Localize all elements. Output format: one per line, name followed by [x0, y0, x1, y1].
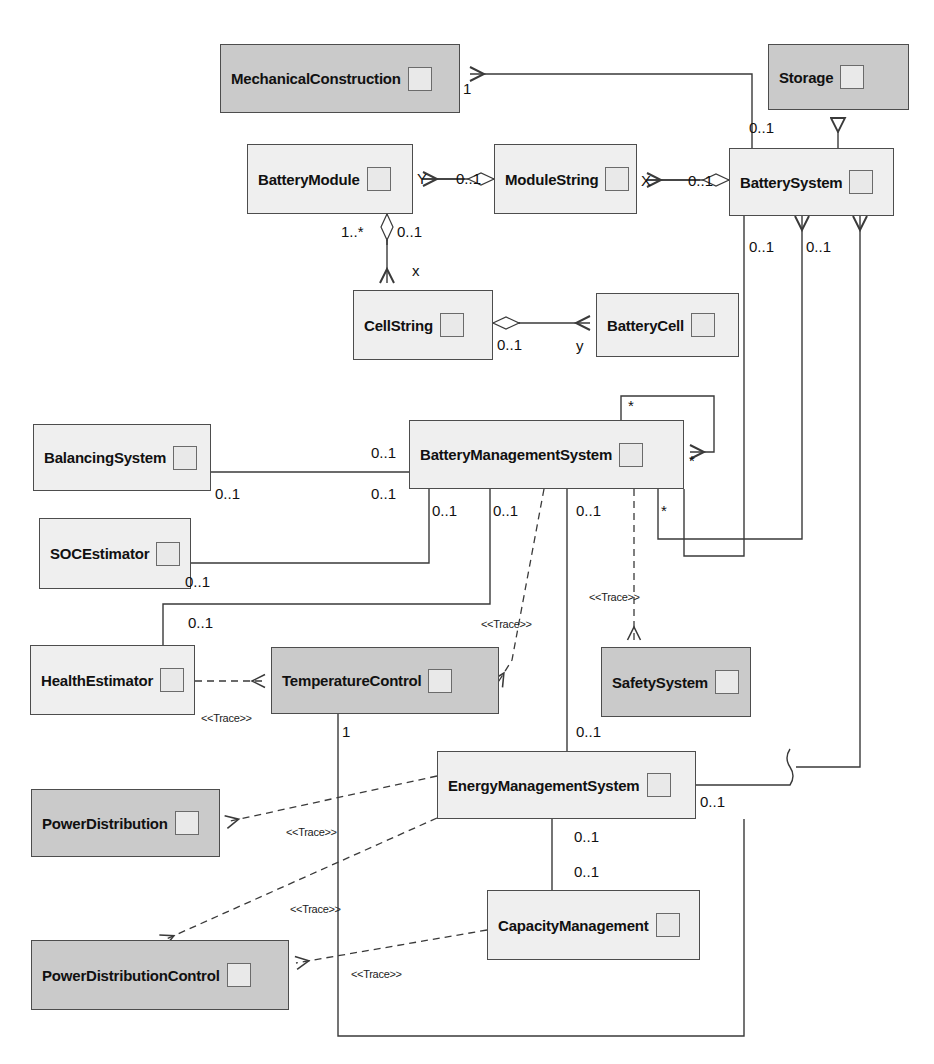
stereotype-label: <<Trace>>	[286, 826, 337, 838]
class-box-balancingsystem[interactable]: BalancingSystem	[33, 424, 211, 491]
multiplicity-label: 1..*	[341, 223, 364, 240]
multiplicity-label: *	[689, 452, 695, 469]
multiplicity-label: 0..1	[397, 223, 422, 240]
multiplicity-label: 0..1	[493, 502, 518, 519]
class-box-batterymodule[interactable]: BatteryModule	[247, 144, 413, 214]
multiplicity-label: 0..1	[749, 238, 774, 255]
edge-batterysystem-bms	[684, 216, 744, 556]
class-icon-stub	[605, 167, 629, 191]
class-name-label: HealthEstimator	[31, 672, 153, 689]
class-name-label: CapacityManagement	[488, 917, 649, 934]
class-box-socestimator[interactable]: SOCEstimator	[39, 518, 191, 589]
multiplicity-label: 0..1	[576, 723, 601, 740]
class-name-label: BatterySystem	[730, 174, 842, 191]
multiplicity-label: 0..1	[432, 502, 457, 519]
class-box-modulestring[interactable]: ModuleString	[494, 144, 637, 214]
stereotype-label: <<Trace>>	[201, 712, 252, 724]
multiplicity-label: 0..1	[806, 238, 831, 255]
multiplicity-label: X	[641, 172, 651, 189]
stereotype-label: <<Trace>>	[290, 903, 341, 915]
edge-trace-ems-powerdistribution	[226, 776, 437, 822]
multiplicity-label: 0..1	[497, 336, 522, 353]
class-name-label: SafetySystem	[602, 674, 708, 691]
class-box-powerdistribution[interactable]: PowerDistribution	[31, 789, 220, 857]
class-icon-stub	[367, 167, 391, 191]
class-box-capacitymanagement[interactable]: CapacityManagement	[487, 890, 700, 960]
multiplicity-label: 0..1	[574, 828, 599, 845]
class-icon-stub	[173, 446, 197, 470]
class-icon-stub	[840, 65, 864, 89]
multiplicity-label: *	[661, 502, 667, 519]
multiplicity-label: Y	[417, 170, 427, 187]
uml-class-diagram: MechanicalConstructionStorageBatteryModu…	[0, 0, 934, 1064]
class-icon-stub	[160, 668, 184, 692]
class-box-batterysystem[interactable]: BatterySystem	[729, 148, 894, 216]
multiplicity-label: 0..1	[371, 444, 396, 461]
class-icon-stub	[647, 773, 671, 797]
edge-bms-batterysystem-star	[658, 216, 802, 539]
class-box-energymanagementsystem[interactable]: EnergyManagementSystem	[437, 751, 696, 819]
class-name-label: PowerDistributionControl	[32, 967, 220, 984]
multiplicity-label: 0..1	[456, 170, 481, 187]
class-icon-stub	[408, 67, 432, 91]
class-box-healthestimator[interactable]: HealthEstimator	[30, 645, 195, 715]
stereotype-label: <<Trace>>	[589, 591, 640, 603]
class-box-batterymanagementsystem[interactable]: BatteryManagementSystem	[409, 420, 684, 489]
multiplicity-label: 1	[342, 723, 350, 740]
class-icon-stub	[656, 913, 680, 937]
class-icon-stub	[156, 542, 180, 566]
multiplicity-label: 0..1	[688, 172, 713, 189]
multiplicity-label: 0..1	[574, 863, 599, 880]
multiplicity-label: 0..1	[700, 793, 725, 810]
multiplicity-label: *	[628, 397, 634, 414]
class-icon-stub	[715, 670, 739, 694]
class-name-label: EnergyManagementSystem	[438, 777, 640, 794]
class-name-label: BatteryManagementSystem	[410, 446, 612, 463]
class-name-label: CellString	[354, 317, 433, 334]
class-box-mechanicalconstruction[interactable]: MechanicalConstruction	[220, 44, 460, 113]
class-name-label: MechanicalConstruction	[221, 70, 401, 87]
class-icon-stub	[849, 170, 873, 194]
class-icon-stub	[175, 811, 199, 835]
class-icon-stub	[428, 669, 452, 693]
multiplicity-label: x	[412, 262, 420, 279]
multiplicity-label: 0..1	[371, 485, 396, 502]
edge-batterysystem-mechanicalconstruction	[470, 74, 752, 148]
edge-trace-capacitymanagement-powerdistributioncontrol	[296, 930, 487, 963]
class-box-temperaturecontrol[interactable]: TemperatureControl	[271, 647, 499, 714]
class-box-batterycell[interactable]: BatteryCell	[596, 293, 739, 357]
multiplicity-label: 0..1	[185, 573, 210, 590]
class-box-cellstring[interactable]: CellString	[353, 290, 493, 360]
multiplicity-label: 0..1	[576, 502, 601, 519]
multiplicity-label: 0..1	[188, 614, 213, 631]
class-name-label: TemperatureControl	[272, 672, 421, 689]
class-box-storage[interactable]: Storage	[768, 44, 909, 110]
class-name-label: Storage	[769, 69, 833, 86]
class-name-label: ModuleString	[495, 171, 598, 188]
class-name-label: BalancingSystem	[34, 449, 166, 466]
stereotype-label: <<Trace>>	[481, 618, 532, 630]
class-name-label: SOCEstimator	[40, 545, 149, 562]
class-name-label: BatteryModule	[248, 171, 360, 188]
multiplicity-label: 1	[463, 80, 471, 97]
class-box-powerdistributioncontrol[interactable]: PowerDistributionControl	[31, 940, 289, 1010]
class-icon-stub	[440, 313, 464, 337]
class-icon-stub	[619, 443, 643, 467]
multiplicity-label: 0..1	[215, 485, 240, 502]
multiplicity-label: 0..1	[749, 119, 774, 136]
class-box-safetysystem[interactable]: SafetySystem	[601, 647, 751, 717]
class-name-label: BatteryCell	[597, 317, 684, 334]
class-icon-stub	[227, 963, 251, 987]
stereotype-label: <<Trace>>	[351, 968, 402, 980]
class-icon-stub	[691, 313, 715, 337]
multiplicity-label: y	[576, 337, 584, 354]
class-name-label: PowerDistribution	[32, 815, 168, 832]
